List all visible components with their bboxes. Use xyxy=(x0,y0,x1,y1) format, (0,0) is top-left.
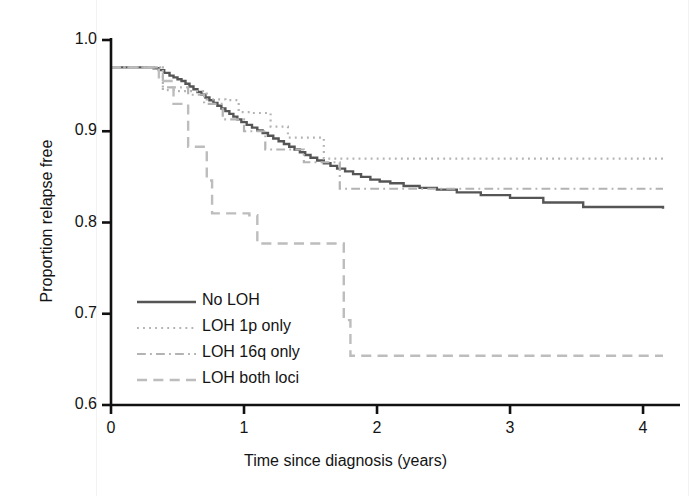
series-line-loh-1p-only xyxy=(111,67,663,158)
y-tick-label: 0.6 xyxy=(51,395,97,413)
y-tick-label: 0.7 xyxy=(51,304,97,322)
legend-label: LOH 1p only xyxy=(202,317,291,335)
x-tick-label: 1 xyxy=(224,419,264,437)
y-tick-label: 0.9 xyxy=(51,121,97,139)
series-line-loh-both-loci xyxy=(111,67,663,355)
x-axis-title: Time since diagnosis (years) xyxy=(0,452,691,470)
x-tick-label: 0 xyxy=(91,419,131,437)
y-tick-label: 0.8 xyxy=(51,213,97,231)
legend-lines-layer xyxy=(137,302,196,380)
series-layer xyxy=(111,67,663,355)
legend-label: LOH both loci xyxy=(202,369,299,387)
x-tick-label: 4 xyxy=(623,419,663,437)
legend-label: LOH 16q only xyxy=(202,343,300,361)
legend-label: No LOH xyxy=(202,291,260,309)
y-tick-label: 1.0 xyxy=(51,30,97,48)
axes-layer xyxy=(102,38,680,414)
kaplan-meier-figure: Proportion relapse free Time since diagn… xyxy=(0,0,691,496)
x-tick-label: 2 xyxy=(357,419,397,437)
series-line-no-loh xyxy=(111,67,663,208)
x-tick-label: 3 xyxy=(490,419,530,437)
